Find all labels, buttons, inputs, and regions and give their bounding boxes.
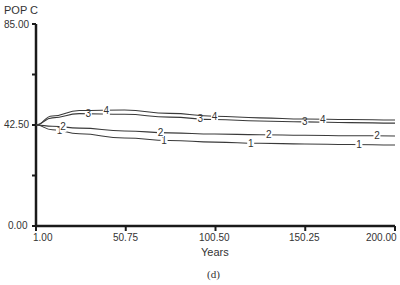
x-tick-1: 1.00 [33,232,52,243]
series-marker-2: 2 [266,129,272,140]
figure-caption: (d) [207,268,220,280]
x-tick-100.5: 100.50 [199,232,230,243]
series-marker-2: 2 [60,121,66,132]
x-tick-150.25: 150.25 [289,232,320,243]
series-marker-2: 2 [374,130,380,141]
series-marker-4: 4 [212,111,218,122]
y-tick-85: 85.00 [4,19,29,30]
series-marker-1: 1 [248,138,254,149]
y-tick-42.5: 42.50 [4,119,29,130]
series-marker-4: 4 [320,114,326,125]
x-axis-label: Years [201,246,229,258]
x-tick-200: 200.00 [366,232,397,243]
y-axis-label: POP C [4,4,38,16]
series-marker-1: 1 [356,139,362,150]
series-marker-2: 2 [158,127,164,138]
series-marker-3: 3 [86,108,92,119]
series-marker-4: 4 [104,105,110,116]
x-tick-50.75: 50.75 [113,232,138,243]
y-tick-0: 0.00 [8,220,27,231]
series-marker-3: 3 [302,116,308,127]
